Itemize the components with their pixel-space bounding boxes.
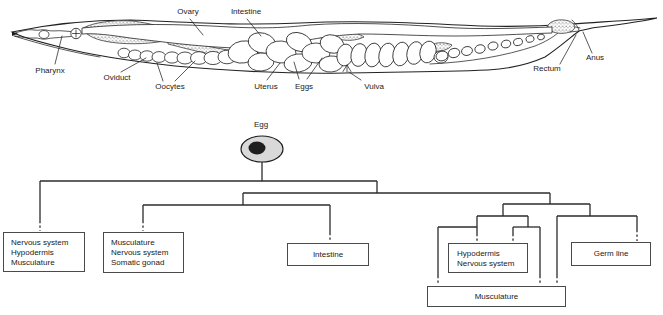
lineage-box-musculature: Musculature (427, 286, 566, 307)
lineage-box-germline: Germ line (571, 242, 651, 266)
box-line: Nervous system (11, 238, 82, 248)
label-ovary: Ovary (177, 7, 198, 16)
label-eggs: Eggs (295, 82, 313, 91)
lineage-box-ms: Musculature Nervous system Somatic gonad (103, 232, 184, 273)
box-line: Intestine (313, 250, 343, 260)
celegans-figure: Pharynx Ovary Intestine Oviduct Oocytes … (0, 0, 663, 315)
lineage-box-ab: Nervous system Hypodermis Musculature (3, 232, 85, 272)
box-line: Musculature (475, 292, 519, 302)
figure-lineart (0, 0, 663, 315)
label-pharynx: Pharynx (35, 66, 64, 75)
egg-nucleus (249, 142, 266, 155)
box-line: Hypodermis (11, 248, 82, 258)
label-intestine: Intestine (231, 7, 261, 16)
box-line: Hypodermis (457, 249, 525, 259)
egg-cell (241, 136, 283, 162)
label-oviduct: Oviduct (103, 73, 130, 82)
box-line: Nervous system (111, 248, 181, 258)
box-line: Germ line (594, 249, 629, 259)
label-vulva: Vulva (364, 82, 384, 91)
box-line: Musculature (11, 258, 82, 268)
lineage-box-c: Hypodermis Nervous system (448, 243, 528, 273)
box-line: Musculature (111, 238, 181, 248)
lineage-box-intestine: Intestine (287, 243, 369, 266)
label-rectum: Rectum (533, 64, 561, 73)
box-line: Nervous system (457, 259, 525, 269)
label-egg: Egg (254, 120, 268, 129)
label-oocytes: Oocytes (155, 82, 184, 91)
label-anus: Anus (586, 53, 604, 62)
label-uterus: Uterus (254, 82, 278, 91)
box-line: Somatic gonad (111, 258, 181, 268)
